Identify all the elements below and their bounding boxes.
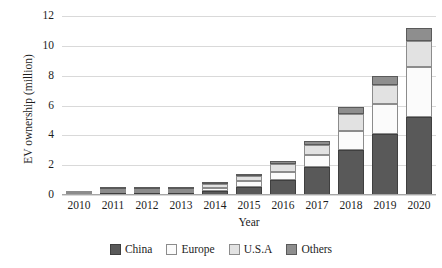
bar-segment-europe[interactable] [372,104,398,134]
legend-swatch-europe-icon [166,244,177,255]
legend-swatch-others-icon [286,244,297,255]
bar-column[interactable] [236,174,262,195]
bar-segment-others[interactable] [406,28,432,41]
bar-segment-usa[interactable] [372,85,398,104]
x-axis-title: Year [62,216,436,228]
bar-segment-china[interactable] [270,180,296,195]
y-axis-tick-label: 6 [14,100,54,112]
x-axis-tick-label: 2011 [96,199,130,211]
x-axis-tick-label: 2019 [368,199,402,211]
legend-item-others[interactable]: Others [286,243,332,255]
legend-swatch-usa-icon [229,244,240,255]
bar-column[interactable] [270,161,296,195]
x-axis-tick-label: 2016 [266,199,300,211]
legend-item-usa[interactable]: U.S.A [229,243,273,255]
ev-ownership-stacked-bar-chart: EV ownership (million) 024681012 2010201… [0,0,442,268]
bar-segment-china[interactable] [338,150,364,195]
legend-label: Others [301,243,332,255]
x-axis-tick-label: 2015 [232,199,266,211]
y-axis-tick-label: 4 [14,129,54,141]
legend-label: China [125,243,152,255]
bar-segment-europe[interactable] [304,155,330,167]
bar-segment-usa[interactable] [406,41,432,66]
x-axis-tick-label: 2010 [62,199,96,211]
legend-label: Europe [181,243,214,255]
x-axis-tick-label: 2013 [164,199,198,211]
plot-area [62,16,436,195]
y-axis-tick-label: 12 [14,10,54,22]
y-axis-tick-labels: 024681012 [0,16,54,195]
bar-column[interactable] [304,141,330,195]
gridline [62,195,436,196]
x-axis-tick-label: 2014 [198,199,232,211]
legend-item-europe[interactable]: Europe [166,243,214,255]
bar-segment-usa[interactable] [304,145,330,155]
y-axis-tick-label: 0 [14,189,54,201]
x-axis-tick-label: 2018 [334,199,368,211]
bar-column[interactable] [372,76,398,195]
y-axis-tick-label: 10 [14,40,54,52]
bar-segment-china[interactable] [372,134,398,195]
bar-segment-usa[interactable] [270,164,296,172]
bar-segment-usa[interactable] [338,114,364,130]
bar-column[interactable] [406,28,432,195]
legend-swatch-china-icon [110,244,121,255]
legend-label: U.S.A [244,243,273,255]
x-axis-tick-labels: 2010201120122013201420152016201720182019… [62,199,436,215]
chart-legend: ChinaEuropeU.S.AOthers [0,243,442,255]
bar-segment-europe[interactable] [406,67,432,118]
bar-segment-china[interactable] [406,117,432,195]
x-axis-tick-label: 2017 [300,199,334,211]
legend-item-china[interactable]: China [110,243,152,255]
x-axis-tick-label: 2012 [130,199,164,211]
bar-segment-others[interactable] [338,107,364,114]
bar-segment-europe[interactable] [270,172,296,180]
y-axis-tick-label: 2 [14,159,54,171]
bar-column[interactable] [338,107,364,195]
bar-segment-china[interactable] [304,167,330,195]
x-axis-tick-label: 2020 [402,199,436,211]
y-axis-tick-label: 8 [14,70,54,82]
bar-segment-others[interactable] [372,76,398,85]
bar-series-container [62,16,436,195]
x-axis-line [62,194,436,195]
bar-segment-europe[interactable] [338,131,364,150]
